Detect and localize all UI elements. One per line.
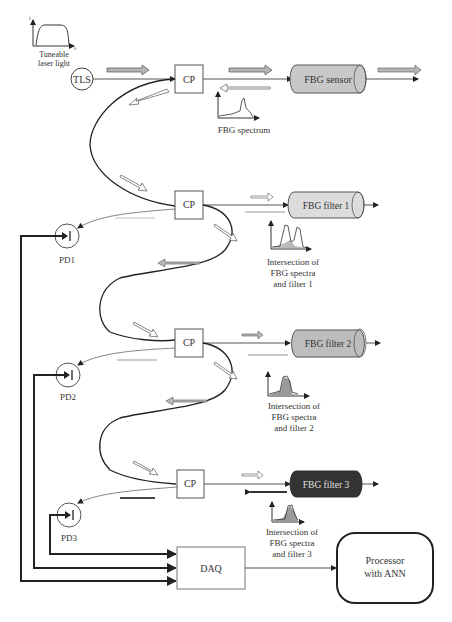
pd2-label: PD2 [60, 392, 76, 402]
fbg-spectrum-caption: FBG spectrum [218, 125, 271, 135]
fbg-filter-2: FBG filter 2 [292, 329, 366, 357]
filter-2-spectrum-inset: Intersection of FBG spectra and filter 2 [268, 372, 320, 433]
fbg-sensor-label: FBG sensor [304, 74, 352, 85]
filter-1-caption-line3: and filter 1 [273, 279, 313, 289]
pd-to-daq-wires [21, 236, 176, 581]
forward-light-arrow [107, 65, 149, 75]
laser-caption-line2: laser light [38, 59, 71, 68]
inset-x-axis-label: λ [74, 46, 77, 51]
filter-2-caption-line3: and filter 2 [274, 423, 314, 433]
photodiode-1: PD1 [55, 224, 79, 265]
daq-label: DAQ [200, 563, 222, 574]
photodiode-2: PD2 [56, 363, 80, 402]
fbg-filter-3-label: FBG filter 3 [303, 480, 350, 490]
fbg-filter-1: FBG filter 1 [288, 192, 364, 218]
laser-caption-line1: Tuneable [39, 50, 69, 59]
processor-label-line2: with ANN [364, 568, 405, 579]
coupler-3-label: CP [183, 337, 196, 348]
daq-box: DAQ [177, 547, 245, 589]
fbg-sensor: FBG sensor [290, 65, 366, 93]
inset-y-axis-label: I [29, 16, 31, 21]
processor-with-ann: Processor with ANN [337, 533, 433, 603]
processor-label-line1: Processor [366, 555, 406, 566]
fbg-filter-2-label: FBG filter 2 [305, 339, 352, 349]
filter-2-caption-line2: FBG spectra [271, 412, 316, 422]
fbg-interrogation-diagram: I λ Tuneable laser light TLS CP FBG sens… [0, 0, 452, 622]
filter-1-spectrum-inset: Intersection of FBG spectra and filter 1 [267, 221, 319, 289]
fbg-filter-3: FBG filter 3 [290, 471, 362, 497]
fbg-filter-1-label: FBG filter 1 [303, 201, 350, 211]
fbg-spectrum-inset: FBG spectrum [218, 92, 271, 135]
coupler-4-label: CP [184, 478, 197, 489]
coupler-2: CP [175, 191, 203, 219]
pd3-label: PD3 [61, 533, 78, 543]
filter-1-caption-line2: FBG spectra [270, 268, 315, 278]
laser-spectrum-inset: I λ Tuneable laser light [29, 16, 77, 68]
coupler-2-label: CP [183, 199, 196, 210]
filter-3-caption-line3: and filter 3 [272, 549, 312, 559]
coupler-1: CP [175, 65, 203, 93]
filter-3-caption-line1: Intersection of [266, 527, 318, 537]
tunable-laser-source: TLS [71, 68, 93, 90]
filter-3-caption-line2: FBG spectra [269, 538, 314, 548]
coupler-3: CP [175, 329, 203, 357]
filter-1-caption-line1: Intersection of [267, 257, 319, 267]
filter-3-spectrum-inset: Intersection of FBG spectra and filter 3 [266, 502, 318, 559]
pd1-label: PD1 [59, 255, 75, 265]
coupler-1-label: CP [183, 74, 196, 85]
photodiode-3: PD3 [57, 503, 81, 543]
filter-2-caption-line1: Intersection of [268, 401, 320, 411]
coupler-4: CP [177, 470, 204, 498]
tls-label: TLS [73, 74, 91, 85]
